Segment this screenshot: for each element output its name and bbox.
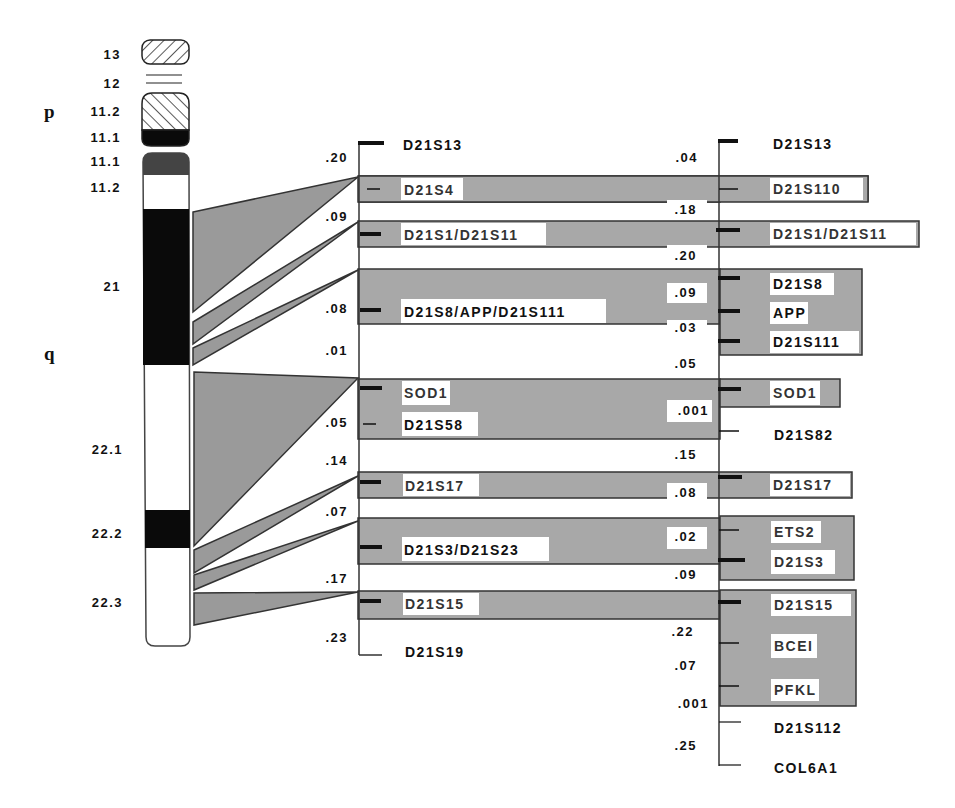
distance-label: .03: [674, 320, 697, 335]
distance-label: .001: [678, 696, 709, 711]
distance-label: .18: [674, 202, 697, 217]
marker-D21S3-right: D21S3: [774, 554, 824, 570]
distance-label: .08: [674, 485, 697, 500]
marker-D21S17-right: D21S17: [773, 477, 833, 493]
band-label: 21: [104, 279, 121, 294]
band-label: 22.1: [92, 442, 123, 457]
marker-D21S58: D21S58: [404, 417, 464, 433]
band-p11-1: [142, 130, 189, 146]
marker-D21S17: D21S17: [405, 478, 465, 494]
distance-label: .09: [325, 209, 348, 224]
distance-label: .08: [325, 301, 348, 316]
marker-D21S19: D21S19: [405, 644, 465, 660]
marker-SOD1: SOD1: [404, 385, 448, 401]
distance-label: .01: [325, 343, 348, 358]
marker-D21S1-D21S11-right: D21S1/D21S11: [773, 226, 888, 242]
marker-D21S3-D21S23: D21S3/D21S23: [404, 542, 519, 558]
distance-label: .20: [674, 248, 697, 263]
marker-D21S4: D21S4: [404, 182, 454, 198]
distance-label: .04: [675, 150, 698, 165]
marker-D21S13-right: D21S13: [773, 136, 833, 152]
distance-label: .15: [674, 447, 697, 462]
band-label: 22.3: [92, 595, 123, 610]
marker-PFKL: PFKL: [774, 682, 817, 698]
arm-label-p: p: [44, 101, 55, 122]
band-label: 22.2: [92, 526, 123, 541]
marker-D21S110: D21S110: [773, 181, 841, 197]
ideogram: p q 13 12 11.2 11.1 11.1 11.2 21 22.1 22…: [44, 40, 190, 646]
distance-label: .001: [678, 403, 709, 418]
distance-label: .02: [674, 529, 697, 544]
marker-D21S8: D21S8: [773, 276, 823, 292]
distance-label: .09: [674, 567, 697, 582]
distance-label: .25: [674, 738, 697, 753]
band-label: 11.1: [90, 130, 121, 145]
band-label: 12: [104, 76, 121, 91]
band-q11-1: [143, 153, 189, 175]
distance-label: .07: [674, 658, 697, 673]
distance-label: .20: [325, 150, 348, 165]
marker-BCEI: BCEI: [774, 638, 813, 654]
distance-label: .09: [674, 285, 697, 300]
band-q21: [143, 209, 189, 365]
distance-label: .22: [671, 624, 694, 639]
marker-APP: APP: [773, 305, 806, 321]
marker-D21S15: D21S15: [405, 596, 465, 612]
chromosome-21-map-diagram: p q 13 12 11.2 11.1 11.1 11.2 21 22.1 22…: [0, 0, 955, 808]
band-label: 13: [104, 47, 121, 62]
arm-label-q: q: [44, 343, 55, 364]
marker-D21S8-APP-D21S111: D21S8/APP/D21S111: [404, 304, 566, 320]
connector-q22-D21S15: [194, 592, 358, 625]
band-q22-2: [145, 510, 190, 548]
distance-label: .17: [325, 571, 348, 586]
distance-label: .07: [325, 504, 348, 519]
band-p13: [142, 40, 189, 64]
distance-label: .14: [325, 453, 348, 468]
interval-bands: [358, 176, 919, 706]
distance-label: .23: [325, 630, 348, 645]
band-label: 11.1: [90, 154, 121, 169]
distance-label: .05: [674, 356, 697, 371]
marker-D21S82: D21S82: [774, 427, 834, 443]
band-label: 11.2: [90, 180, 121, 195]
band-label: 11.2: [90, 104, 121, 119]
marker-D21S111: D21S111: [773, 334, 840, 350]
marker-SOD1-right: SOD1: [773, 385, 817, 401]
marker-ETS2: ETS2: [774, 524, 815, 540]
marker-COL6A1: COL6A1: [774, 760, 838, 776]
marker-D21S1-D21S11: D21S1/D21S11: [404, 227, 519, 243]
marker-D21S15-right: D21S15: [774, 597, 834, 613]
connector-q21-D21S4: [193, 177, 358, 312]
connectors: [193, 177, 358, 625]
marker-D21S13: D21S13: [403, 137, 463, 153]
marker-D21S112: D21S112: [774, 720, 842, 736]
distance-label: .05: [325, 415, 348, 430]
band-p11-2: [142, 93, 189, 130]
